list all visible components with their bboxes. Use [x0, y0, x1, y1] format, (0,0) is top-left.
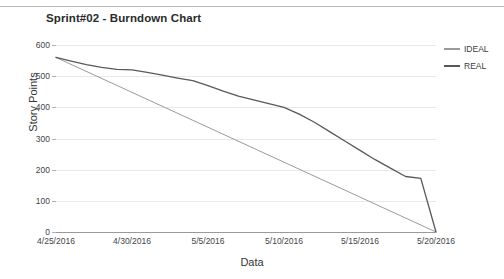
y-tick-label: 300 — [10, 134, 50, 144]
plot-area — [56, 45, 436, 232]
burndown-chart: Sprint#02 - Burndown Chart Story Points … — [0, 0, 504, 279]
x-tick-label: 5/5/2016 — [170, 236, 246, 246]
series-line-ideal — [56, 57, 436, 232]
x-axis-line — [56, 232, 436, 233]
y-tick-label: 600 — [10, 40, 50, 50]
y-tick-label: 500 — [10, 71, 50, 81]
x-axis-title: Data — [0, 256, 504, 268]
legend-swatch-icon — [444, 48, 460, 50]
legend-item-ideal[interactable]: IDEAL — [444, 42, 504, 56]
legend-swatch-icon — [444, 65, 460, 67]
y-tick-label: 200 — [10, 165, 50, 175]
legend-label: REAL — [464, 61, 486, 71]
x-tick-label: 5/10/2016 — [246, 236, 322, 246]
y-tick-label: 400 — [10, 102, 50, 112]
chart-legend: IDEALREAL — [444, 42, 504, 76]
legend-label: IDEAL — [464, 44, 489, 54]
x-tick-label: 4/25/2016 — [18, 236, 94, 246]
x-tick-label: 5/20/2016 — [398, 236, 474, 246]
x-tick-label: 5/15/2016 — [322, 236, 398, 246]
chart-title: Sprint#02 - Burndown Chart — [46, 12, 201, 24]
series-lines — [56, 45, 436, 232]
legend-item-real[interactable]: REAL — [444, 59, 504, 73]
x-tick-label: 4/30/2016 — [94, 236, 170, 246]
top-divider — [0, 6, 504, 7]
y-tick-label: 100 — [10, 196, 50, 206]
